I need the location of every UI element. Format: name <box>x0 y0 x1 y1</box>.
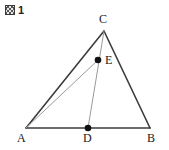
segment-ae <box>26 60 98 128</box>
point-marker-e <box>95 57 102 64</box>
vertex-label-d: D <box>83 132 92 144</box>
segment-cd <box>88 31 104 128</box>
vertex-label-a: A <box>17 132 26 144</box>
vertex-label-c: C <box>99 13 107 25</box>
segment-ac <box>26 31 104 128</box>
point-marker-group <box>85 57 102 132</box>
vertex-label-e: E <box>105 54 112 66</box>
figure-container: 1 A B C D E <box>0 0 169 150</box>
vertex-label-b: B <box>147 132 155 144</box>
geometry-canvas <box>0 0 169 150</box>
segment-cb <box>104 31 150 128</box>
segment-group <box>26 31 150 128</box>
